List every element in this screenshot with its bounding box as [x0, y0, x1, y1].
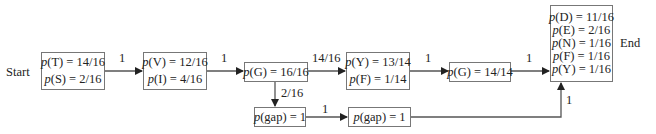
start-label: Start	[6, 65, 30, 79]
edge-label-n1-n2: 1	[119, 51, 125, 65]
edge-label-n3-n7: 2/16	[281, 86, 303, 100]
node-n4: p(Y) = 13/14 p(F) = 1/14	[346, 52, 410, 90]
node-n7: p(gap) = 1	[254, 107, 306, 127]
node-n4-line: p(F) = 1/14	[349, 71, 406, 88]
edge-label-n4-n5: 1	[425, 51, 431, 65]
node-n1: p(T) = 14/16 p(S) = 2/16	[41, 52, 105, 90]
end-label: End	[620, 36, 640, 50]
node-n2: p(V) = 12/16 p(I) = 4/16	[143, 52, 207, 90]
edge-label-n7-n8: 1	[322, 102, 328, 116]
edge-label-n3-n4: 14/16	[312, 51, 340, 65]
node-n6-line: p(Y) = 1/16	[552, 63, 611, 76]
node-n1-line: p(T) = 14/16	[41, 54, 105, 71]
edge-label-n8-n6: 1	[566, 93, 572, 107]
edge-label-n5-n6: 1	[526, 51, 532, 65]
edge-n8-n6	[411, 83, 561, 117]
node-n5: p(G) = 14/14	[449, 62, 511, 82]
node-n1-line: p(S) = 2/16	[44, 71, 101, 88]
node-n5-line: p(G) = 14/14	[447, 64, 512, 81]
node-n3: p(G) = 16/16	[244, 62, 308, 82]
node-n4-line: p(Y) = 13/14	[345, 54, 410, 71]
node-n2-line: p(V) = 12/16	[142, 54, 207, 71]
node-n8: p(gap) = 1	[348, 107, 411, 127]
node-n2-line: p(I) = 4/16	[148, 71, 202, 88]
node-n3-line: p(G) = 16/16	[243, 64, 308, 81]
edge-label-n2-n3: 1	[221, 51, 227, 65]
node-n6: p(D) = 11/16 p(E) = 2/16 p(N) = 1/16 p(F…	[550, 5, 613, 82]
node-n7-line: p(gap) = 1	[254, 109, 306, 126]
node-n8-line: p(gap) = 1	[353, 109, 405, 126]
